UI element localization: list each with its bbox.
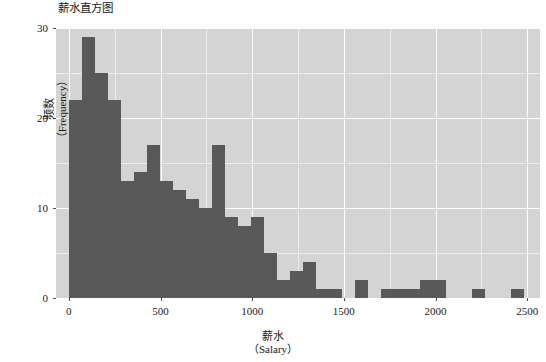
histogram-bar — [134, 172, 147, 298]
histogram-bar — [225, 217, 238, 298]
x-tick-label: 2000 — [406, 306, 466, 317]
chart-title: 薪水直方图 — [58, 1, 113, 15]
histogram-bar — [381, 289, 394, 298]
histogram-bar — [108, 100, 121, 298]
histogram-figure: 薪水直方图 0102030 05001000150020002500 频数 （F… — [0, 0, 546, 362]
histogram-bar — [212, 145, 225, 298]
histogram-bar — [277, 280, 290, 298]
x-tick-mark — [344, 298, 345, 301]
histogram-bars — [56, 28, 540, 298]
histogram-bar — [420, 280, 433, 298]
x-tick-label: 1500 — [314, 306, 374, 317]
histogram-bar — [82, 37, 95, 298]
histogram-bar — [238, 226, 251, 298]
histogram-bar — [433, 280, 446, 298]
x-axis-title-line1: 薪水 — [262, 330, 284, 342]
x-tick-mark — [69, 298, 70, 301]
x-tick-label: 0 — [39, 306, 99, 317]
x-tick-mark — [252, 298, 253, 301]
histogram-bar — [147, 145, 160, 298]
histogram-bar — [95, 73, 108, 298]
histogram-bar — [316, 289, 329, 298]
y-axis-title-line2: （Frequency） — [56, 49, 69, 169]
y-tick-mark — [53, 28, 56, 29]
histogram-bar — [511, 289, 524, 298]
histogram-bar — [407, 289, 420, 298]
histogram-bar — [173, 190, 186, 298]
x-tick-mark — [527, 298, 528, 301]
y-tick-mark — [53, 298, 56, 299]
x-tick-label: 1000 — [222, 306, 282, 317]
histogram-bar — [251, 217, 264, 298]
x-tick-mark — [436, 298, 437, 301]
histogram-bar — [329, 289, 342, 298]
x-axis-title-line2: （Salary） — [0, 343, 546, 356]
plot-area — [56, 28, 540, 298]
x-tick-label: 500 — [131, 306, 191, 317]
histogram-bar — [472, 289, 485, 298]
histogram-bar — [121, 181, 134, 298]
y-axis-title: 频数 （Frequency） — [43, 49, 69, 169]
y-tick-label: 0 — [2, 293, 48, 304]
x-tick-label: 2500 — [497, 306, 546, 317]
gridline-horizontal — [56, 298, 540, 299]
histogram-bar — [290, 271, 303, 298]
y-tick-label: 10 — [2, 203, 48, 214]
y-tick-label: 20 — [2, 113, 48, 124]
x-tick-mark — [161, 298, 162, 301]
x-axis-title: 薪水 （Salary） — [0, 330, 546, 356]
histogram-bar — [199, 208, 212, 298]
y-tick-mark — [53, 208, 56, 209]
y-tick-label: 30 — [2, 23, 48, 34]
histogram-bar — [355, 280, 368, 298]
histogram-bar — [394, 289, 407, 298]
histogram-bar — [264, 253, 277, 298]
histogram-bar — [69, 100, 82, 298]
y-axis-title-line1: 频数 — [43, 98, 55, 120]
histogram-bar — [186, 199, 199, 298]
histogram-bar — [303, 262, 316, 298]
histogram-bar — [160, 181, 173, 298]
